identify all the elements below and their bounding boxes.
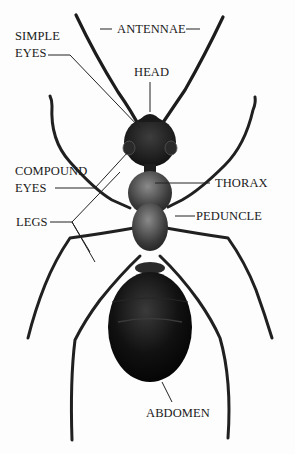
label-thorax: THORAX [215, 176, 268, 190]
label-compound-eyes-1: COMPOUND [15, 164, 87, 178]
label-compound-eyes-2: EYES [15, 181, 47, 195]
mesothorax-shape [132, 203, 168, 251]
label-peduncle: PEDUNCLE [196, 209, 262, 223]
abdomen-shape [108, 272, 192, 382]
label-simple-eyes-1: SIMPLE [15, 29, 60, 43]
label-simple-eyes-2: EYES [15, 46, 47, 60]
label-head: HEAD [134, 65, 169, 79]
label-antennae: ANTENNAE [117, 22, 186, 36]
compound-eye-left [123, 141, 135, 155]
ant-anatomy-diagram: ANTENNAE SIMPLE EYES HEAD COMPOUND EYES … [0, 0, 295, 454]
label-legs: LEGS [16, 215, 48, 229]
compound-eye-right [165, 141, 177, 155]
label-abdomen: ABDOMEN [146, 406, 210, 420]
